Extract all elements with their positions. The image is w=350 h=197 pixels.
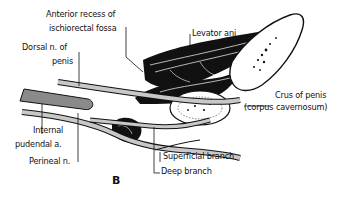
label-anterior-recess-line1: Anterior recess of [46,8,115,19]
label-levator-ani: Levator ani [192,27,236,38]
label-perineal-nerve: Perineal n. [29,155,70,166]
label-deep-branch: Deep branch [161,165,212,176]
label-dorsal-nerve-line2: penis [52,55,73,66]
label-superficial-branch: Superficial branch [163,150,234,161]
label-internal-pudendal-line2: pudendal a. [15,138,62,149]
label-internal-pudendal-line1: Internal [33,124,63,135]
label-anterior-recess-line2: ischiorectal fossa [49,22,117,33]
label-dorsal-nerve-line1: Dorsal n. of [22,41,67,52]
crus-of-penis [230,14,304,91]
internal-pudendal-artery [20,89,93,110]
panel-label: B [112,174,120,187]
label-crus-line2: (corpus cavernosum) [244,101,327,112]
corpus-cavernosum-section [170,91,230,125]
label-crus-line1: Crus of penis [275,89,326,100]
